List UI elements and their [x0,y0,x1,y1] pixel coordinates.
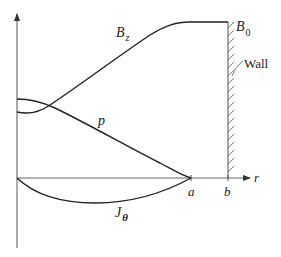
tick-a-label: a [188,184,195,199]
p-label: p [97,113,105,128]
wall-leader [232,61,243,76]
b0-label: B0 [236,19,251,38]
j-theta-curve [17,178,191,203]
r-axis-label: r [254,170,260,185]
bz-label: Bz [116,25,130,43]
wall-label: Wall [244,56,269,71]
p-curve [17,99,191,178]
plasma-profile-diagram: Bz B0 Wall p Jθ a b r [0,0,281,257]
tick-b-label: b [224,184,231,199]
j-theta-label: Jθ [115,205,128,223]
wall [228,22,234,178]
